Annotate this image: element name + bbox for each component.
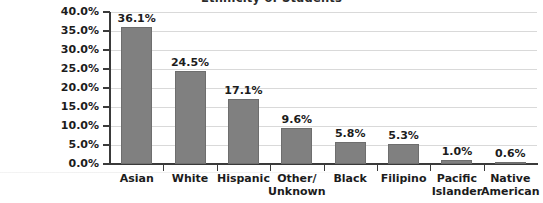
y-tick-mark xyxy=(103,163,110,165)
y-tick-label: 25.0% xyxy=(37,62,99,75)
bar xyxy=(121,27,152,164)
y-tick-label: 35.0% xyxy=(37,24,99,37)
bar-value-label: 1.0% xyxy=(427,145,487,158)
bar xyxy=(228,99,259,164)
gridline xyxy=(110,12,537,13)
gridline xyxy=(110,31,537,32)
y-tick-label: 30.0% xyxy=(37,43,99,56)
y-tick-label: 0.0% xyxy=(37,157,99,170)
bar xyxy=(335,142,366,164)
x-tick-mark xyxy=(270,165,271,171)
y-tick-mark xyxy=(103,125,110,127)
bar-value-label: 24.5% xyxy=(160,56,220,69)
x-tick-mark xyxy=(430,165,431,171)
gridline xyxy=(110,50,537,51)
y-tick-label: 15.0% xyxy=(37,100,99,113)
x-tick-mark xyxy=(163,165,164,171)
bar xyxy=(281,128,312,164)
bar xyxy=(441,160,472,164)
x-tick-mark xyxy=(324,165,325,171)
y-tick-mark xyxy=(103,30,110,32)
bar xyxy=(175,71,206,164)
bar-value-label: 36.1% xyxy=(107,12,167,25)
x-tick-mark xyxy=(217,165,218,171)
y-tick-label: 20.0% xyxy=(37,81,99,94)
bar xyxy=(495,162,526,164)
x-tick-mark xyxy=(484,165,485,171)
category-label: Native American xyxy=(472,172,543,198)
bar-value-label: 17.1% xyxy=(213,84,273,97)
y-tick-mark xyxy=(103,144,110,146)
bar-value-label: 9.6% xyxy=(267,113,327,126)
y-tick-label: 5.0% xyxy=(37,138,99,151)
y-tick-mark xyxy=(103,68,110,70)
y-tick-mark xyxy=(103,87,110,89)
y-tick-label: 10.0% xyxy=(37,119,99,132)
bar xyxy=(388,144,419,164)
gridline xyxy=(110,69,537,70)
bar-value-label: 5.3% xyxy=(374,129,434,142)
y-tick-mark xyxy=(103,106,110,108)
y-tick-mark xyxy=(103,49,110,51)
bar-chart: Ethnicity of Students 40.0%35.0%30.0%25.… xyxy=(0,0,543,203)
y-tick-label: 40.0% xyxy=(37,5,99,18)
bar-value-label: 5.8% xyxy=(320,127,380,140)
x-tick-mark xyxy=(377,165,378,171)
bar-value-label: 0.6% xyxy=(480,147,540,160)
